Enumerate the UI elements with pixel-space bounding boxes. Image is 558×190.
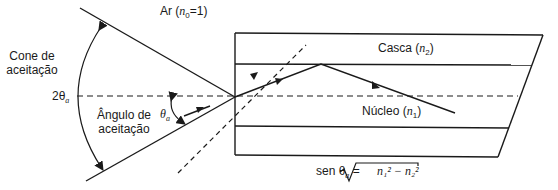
guided-ray-arrow-1-icon (275, 78, 283, 85)
double-angle-label: 2θa (52, 89, 69, 108)
core-lower-boundary (235, 126, 509, 128)
core-label: Núcleo (n1) (362, 104, 421, 123)
theta-a-label: θa (160, 107, 170, 126)
acceptance-formula: sen θa = n₁² − n₂² (316, 164, 419, 183)
cone-angle-arc (78, 27, 101, 167)
cladding-label: Casca (n2) (378, 41, 434, 60)
core-upper-boundary (235, 64, 532, 65)
guided-ray (235, 64, 455, 113)
acceptance-angle-label: Ângulo de aceitação (92, 108, 156, 136)
acceptance-angle-arc (171, 97, 182, 122)
air-label: Ar (n0=1) (160, 4, 207, 23)
fiber-acceptance-diagram (0, 0, 558, 190)
acceptance-cone-label: Cone de aceitação (2, 49, 62, 77)
refracted-ray-arrow-icon (250, 72, 258, 80)
incident-ray-arrow-icon (196, 107, 204, 113)
cone-upper-line (80, 8, 235, 97)
